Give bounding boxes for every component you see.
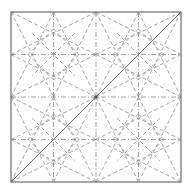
crease-lines	[11, 12, 181, 182]
crease-pattern-diagram	[0, 0, 192, 195]
star-crease	[28, 114, 54, 140]
star-crease	[113, 29, 139, 55]
star-crease	[28, 29, 54, 55]
center-vertex	[94, 95, 97, 98]
star-crease	[54, 29, 80, 55]
star-crease	[113, 114, 139, 140]
star-crease	[139, 114, 165, 140]
